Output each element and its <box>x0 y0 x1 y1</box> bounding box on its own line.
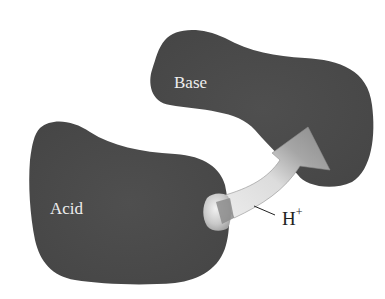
h-plus-charge: + <box>296 205 303 219</box>
diagram-canvas <box>0 0 385 299</box>
acid-base-diagram: Base Acid H+ <box>0 0 385 299</box>
h-plus-symbol: H <box>282 208 296 229</box>
acid-label: Acid <box>50 199 83 219</box>
h-plus-label: H+ <box>282 207 303 230</box>
h-plus-leader-line <box>254 206 275 215</box>
base-label: Base <box>174 73 207 93</box>
